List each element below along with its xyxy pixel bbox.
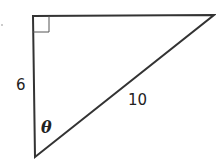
- angle-label-theta: θ: [41, 118, 52, 137]
- hypotenuse-label-10: 10: [128, 91, 147, 109]
- triangle-diagram: 6 10 θ: [0, 0, 216, 166]
- right-triangle: [33, 15, 214, 157]
- side-label-6: 6: [16, 76, 26, 94]
- stray-mark: [1, 24, 3, 26]
- right-angle-marker: [33, 16, 49, 32]
